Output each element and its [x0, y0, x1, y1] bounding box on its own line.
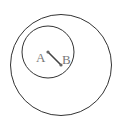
point-a	[46, 50, 49, 53]
label-b: B	[62, 52, 71, 67]
label-a: A	[36, 50, 46, 65]
diagram-canvas: A B	[0, 0, 121, 125]
segment-ab	[48, 52, 61, 65]
concentric-circles-diagram: A B	[0, 0, 121, 125]
